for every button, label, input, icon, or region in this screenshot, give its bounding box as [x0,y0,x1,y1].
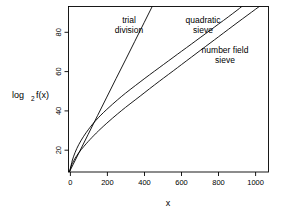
trial-division-label-line2: division [115,25,144,35]
plot-frame [69,7,269,173]
trial-division-label-line1: trial [122,15,136,25]
x-axis-tick-labels: 0 200 400 600 800 1000 [68,178,264,187]
number-field-sieve-label-line2: sieve [215,55,235,65]
x-axis-title: x [166,198,171,208]
y-tick-label-20: 20 [55,146,64,154]
y-axis-ticks [65,32,69,150]
annotation-number-field-sieve: number field sieve [202,45,249,65]
x-tick-label-1000: 1000 [247,178,264,187]
x-tick-label-600: 600 [175,178,188,187]
y-tick-label-60: 60 [55,67,64,75]
x-tick-label-800: 800 [212,178,225,187]
number-field-sieve-label-line1: number field [202,45,249,55]
x-tick-label-0: 0 [68,178,72,187]
y-tick-label-80: 80 [55,28,64,36]
chart-canvas: 20 40 60 80 0 200 400 600 800 1000 x log [0,0,281,216]
y-tick-label-40: 40 [55,107,64,115]
y-axis-title-rest: f(x) [36,90,49,100]
series-curves [70,0,268,171]
annotation-trial-division: trial division [115,15,144,35]
y-axis-tick-labels: 20 40 60 80 [55,28,64,154]
y-axis-title-subscript: 2 [31,95,35,102]
x-axis-ticks [70,172,255,176]
y-axis-title-base: log [12,90,24,100]
annotation-quadratic-sieve: quadratic sieve [186,15,222,35]
curve-quadratic-sieve [70,5,244,172]
chart-figure: 20 40 60 80 0 200 400 600 800 1000 x log [0,0,281,216]
quadratic-sieve-label-line2: sieve [193,25,213,35]
y-axis-title: log 2 f(x) [12,90,49,102]
curve-number-field-sieve [70,0,268,171]
x-tick-label-200: 200 [101,178,114,187]
quadratic-sieve-label-line1: quadratic [186,15,222,25]
x-tick-label-400: 400 [138,178,151,187]
